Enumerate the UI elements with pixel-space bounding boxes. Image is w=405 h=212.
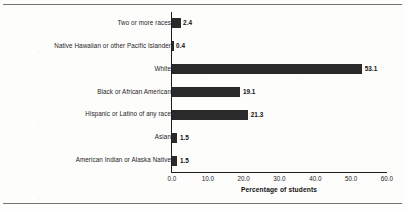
bar — [172, 64, 362, 74]
category-label: Two or more races — [118, 12, 172, 35]
bar-row: Two or more races2.4 — [0, 12, 405, 35]
bar-row: American Indian or Alaska Native1.5 — [0, 149, 405, 172]
bar-row: Hispanic or Latino of any race21.3 — [0, 103, 405, 126]
x-axis-tick-label: 60.0 — [381, 175, 393, 182]
bar-row: White53.1 — [0, 58, 405, 81]
bar-value-label: 1.5 — [180, 155, 189, 167]
bar — [172, 87, 240, 97]
bar-value-label: 21.3 — [251, 109, 263, 121]
x-axis-title: Percentage of students — [171, 186, 387, 193]
bar — [172, 41, 174, 51]
bar-row: Black or African American19.1 — [0, 81, 405, 104]
x-axis-tick-label: 50.0 — [345, 175, 357, 182]
top-divider-rule — [3, 4, 402, 5]
bar-row: Native Hawaiian or other Pacific Islande… — [0, 35, 405, 58]
bar-value-label: 2.4 — [183, 17, 192, 29]
x-axis-line — [171, 172, 387, 173]
category-label: American Indian or Alaska Native — [76, 149, 171, 172]
bar-chart-plot-area: Two or more races2.4Native Hawaiian or o… — [0, 12, 405, 172]
bar-value-label: 19.1 — [243, 86, 255, 98]
figure-container: Two or more races2.4Native Hawaiian or o… — [0, 0, 405, 212]
x-axis-tick-label: 30.0 — [273, 175, 285, 182]
bar — [172, 18, 181, 28]
bar-row: Asian1.5 — [0, 126, 405, 149]
category-label: White — [155, 58, 172, 81]
x-axis-tick-label: 10.0 — [202, 175, 214, 182]
x-axis-tick-label: 0.0 — [168, 175, 177, 182]
bar — [172, 133, 177, 143]
bar-value-label: 53.1 — [365, 63, 377, 75]
x-axis-tick-label: 40.0 — [309, 175, 321, 182]
category-label: Hispanic or Latino of any race — [85, 103, 171, 126]
bottom-divider-rule — [3, 203, 402, 204]
bar-value-label: 0.4 — [176, 40, 185, 52]
category-label: Black or African American — [97, 81, 171, 104]
bar — [172, 110, 248, 120]
bar — [172, 156, 177, 166]
x-axis-tick-label: 20.0 — [238, 175, 250, 182]
category-label: Native Hawaiian or other Pacific Islande… — [54, 35, 171, 58]
bar-value-label: 1.5 — [180, 132, 189, 144]
category-label: Asian — [155, 126, 171, 149]
